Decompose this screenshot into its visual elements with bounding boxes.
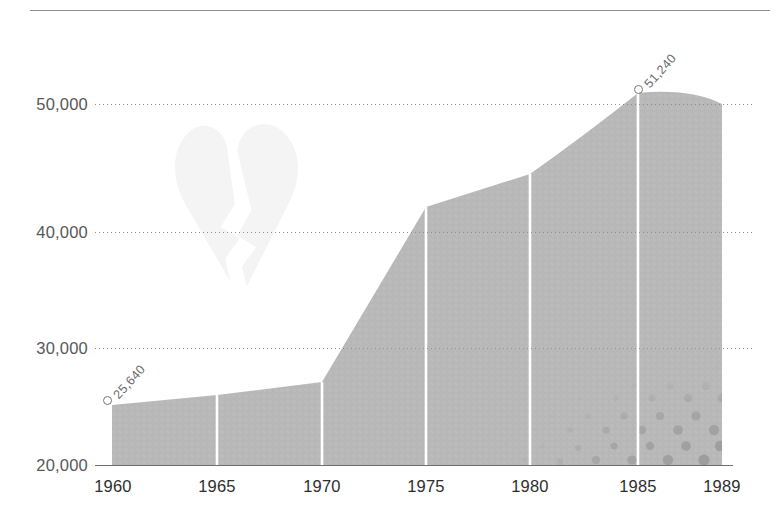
x-tick-label-1989: 1989 (703, 478, 741, 495)
x-tick-label-1960: 1960 (94, 478, 132, 495)
gridline-30000 (95, 348, 755, 349)
x-tick-label-1985: 1985 (619, 478, 657, 495)
x-tick-label-1980: 1980 (511, 478, 549, 495)
x-tick-label-1965: 1965 (198, 478, 236, 495)
y-tick-50000: 50,000 (0, 96, 88, 113)
y-tick-20000: 20,000 (0, 457, 88, 474)
gridline-40000 (95, 232, 755, 233)
y-tick-label: 50,000 (8, 96, 88, 113)
y-tick-label: 40,000 (8, 224, 88, 241)
annotation-marker-start (103, 396, 112, 405)
area-chart-plot (0, 0, 784, 531)
chart-container: 50,000 40,000 30,000 20,000 1960 1965 19… (0, 0, 784, 531)
annotation-marker-peak (634, 85, 643, 94)
y-tick-label: 30,000 (8, 340, 88, 357)
x-axis-baseline (95, 465, 733, 466)
broken-heart-watermark (175, 124, 298, 287)
y-tick-label: 20,000 (8, 457, 88, 474)
y-tick-30000: 30,000 (0, 340, 88, 357)
y-tick-40000: 40,000 (0, 224, 88, 241)
x-tick-label-1970: 1970 (303, 478, 341, 495)
x-tick-label-1975: 1975 (407, 478, 445, 495)
gridline-50000 (95, 104, 755, 105)
